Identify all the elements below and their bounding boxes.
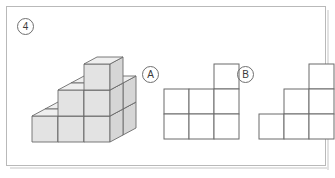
option-b-grid[interactable]: [258, 63, 335, 145]
grid-cell: [164, 114, 189, 139]
grid-cell: [309, 64, 334, 89]
grid-cell: [189, 114, 214, 139]
grid-cell: [214, 114, 239, 139]
grid-cell: [214, 64, 239, 89]
grid-cell: [164, 89, 189, 114]
unit-cube: [84, 57, 123, 90]
grid-cell: [309, 89, 334, 114]
panel-shadow-bottom: [10, 167, 329, 169]
option-a-label: A: [142, 66, 159, 83]
grid-cell: [214, 89, 239, 114]
isometric-cube-stack: [28, 30, 138, 148]
grid-cell: [284, 89, 309, 114]
grid-cell: [189, 89, 214, 114]
option-b-label: B: [237, 66, 254, 83]
option-a-grid[interactable]: [163, 63, 241, 145]
grid-cell: [309, 114, 334, 139]
worksheet-page: 4 A B: [0, 0, 335, 178]
grid-cell: [259, 114, 284, 139]
grid-cell: [284, 114, 309, 139]
